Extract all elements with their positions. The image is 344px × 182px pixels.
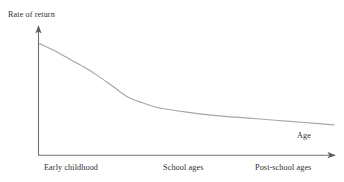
x-tick-label-post-school-ages: Post-school ages: [255, 163, 311, 173]
x-tick-label-school-ages: School ages: [163, 163, 203, 173]
chart-plot-area: [0, 0, 344, 182]
x-tick-label-early-childhood: Early childhood: [44, 163, 98, 173]
y-axis-label: Rate of return: [8, 10, 55, 20]
rate-of-return-curve: [40, 44, 335, 125]
chart-figure: Rate of return Age Early childhood Schoo…: [0, 0, 344, 182]
x-axis-label: Age: [297, 131, 311, 141]
